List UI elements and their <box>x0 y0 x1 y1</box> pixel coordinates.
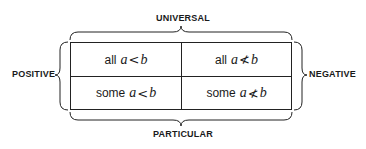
quantifier: all <box>105 53 117 67</box>
not-less-than-symbol: ≮ <box>239 52 250 67</box>
positive-label: POSITIVE <box>12 69 55 79</box>
less-than-symbol: < <box>129 52 140 67</box>
quantifier: some <box>206 86 235 100</box>
cell-universal-positive: all a < b <box>71 43 181 76</box>
variable-b: b <box>260 85 267 101</box>
variable-a: a <box>129 85 136 101</box>
variable-a: a <box>231 52 238 68</box>
quantifier: all <box>215 53 227 67</box>
variable-b: b <box>251 52 258 68</box>
universal-label: UNIVERSAL <box>0 13 366 23</box>
less-than-symbol: < <box>137 86 148 101</box>
top-brace <box>70 26 292 40</box>
not-less-than-symbol: ≮ <box>248 86 259 101</box>
cell-particular-negative: some a ≮ b <box>181 76 291 109</box>
quantifier: some <box>96 86 125 100</box>
negative-label: NEGATIVE <box>309 69 356 79</box>
bottom-brace <box>70 112 292 126</box>
left-brace <box>55 42 68 110</box>
right-brace <box>294 42 307 110</box>
cell-particular-positive: some a < b <box>71 76 181 109</box>
variable-a: a <box>240 85 247 101</box>
particular-label: PARTICULAR <box>0 129 366 139</box>
variable-a: a <box>121 52 128 68</box>
variable-b: b <box>140 52 147 68</box>
proposition-grid: all a < b all a ≮ b some a < b some a ≮ … <box>70 42 292 110</box>
variable-b: b <box>149 85 156 101</box>
cell-universal-negative: all a ≮ b <box>181 43 291 76</box>
